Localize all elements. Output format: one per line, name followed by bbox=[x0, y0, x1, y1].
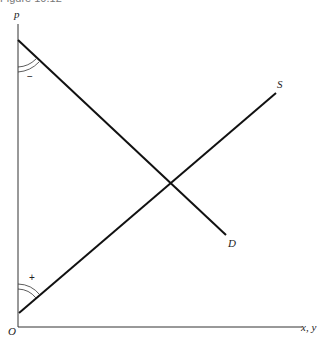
origin-label: O bbox=[8, 325, 16, 337]
supply-demand-diagram: p x, y O S D − + bbox=[0, 0, 320, 340]
x-axis-label: x, y bbox=[300, 321, 316, 333]
demand-label: D bbox=[227, 237, 236, 249]
demand-angle-arc-inner bbox=[18, 59, 36, 67]
demand-curve bbox=[18, 40, 226, 235]
y-axis-label: p bbox=[13, 8, 20, 20]
supply-slope-sign: + bbox=[29, 272, 35, 283]
supply-curve bbox=[19, 93, 276, 313]
supply-label: S bbox=[277, 78, 283, 90]
supply-angle-arc-inner bbox=[18, 289, 36, 298]
demand-slope-sign: − bbox=[27, 71, 33, 82]
